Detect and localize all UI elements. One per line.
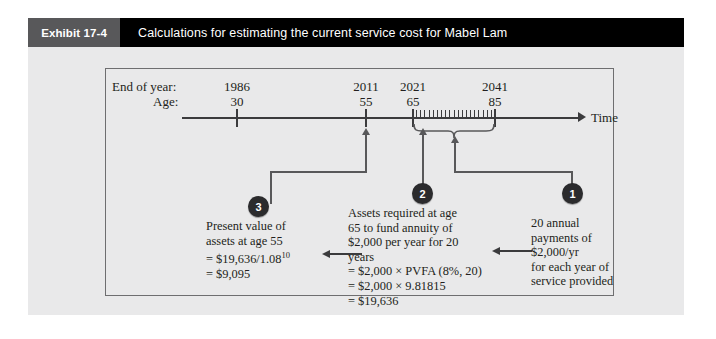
- age-value-55: 55: [343, 94, 389, 110]
- step-badge-2[interactable]: 2: [412, 183, 433, 204]
- note-step-2: Assets required at age 65 to fund annuit…: [348, 206, 493, 308]
- step-badge-1[interactable]: 1: [562, 183, 583, 204]
- label-age: Age:: [153, 94, 178, 110]
- note3-line3: = $19,636/1.0810: [206, 248, 326, 267]
- annual-payment-ticks: [412, 110, 495, 118]
- timeline-axis-label: Time: [591, 110, 618, 126]
- age-value-65: 65: [390, 94, 436, 110]
- age-value-85: 85: [472, 94, 518, 110]
- note3-line4: = $9,095: [206, 267, 326, 282]
- connector-vertical-step2: [422, 134, 424, 187]
- connector-horizontal-step1: [454, 171, 573, 173]
- year-value-1986: 1986: [214, 79, 260, 95]
- note-step-1: 20 annual payments of $2,000/yr for each…: [531, 216, 641, 289]
- note3-line2: assets at age 55: [206, 234, 326, 249]
- exhibit-number-tag: Exhibit 17-4: [28, 18, 120, 47]
- connector-vertical-step3: [270, 171, 272, 204]
- year-value-2021: 2021: [390, 79, 436, 95]
- axis-tick-2011: [365, 109, 367, 127]
- exhibit-title: Calculations for estimating the current …: [120, 18, 684, 47]
- connector-horizontal-step3: [270, 171, 367, 173]
- year-value-2011: 2011: [343, 79, 389, 95]
- note2-line6: = $2,000 × 9.81815: [348, 279, 493, 294]
- exhibit-figure: Exhibit 17-4 Calculations for estimating…: [0, 0, 716, 339]
- arrow-step1-to-step2: [500, 250, 532, 252]
- note1-line5: service provided: [531, 274, 641, 289]
- axis-tick-1986: [236, 109, 238, 127]
- note2-line3: $2,000 per year for 20: [348, 235, 493, 250]
- note3-line1: Present value of: [206, 219, 326, 234]
- connector-vertical-brace: [454, 142, 456, 172]
- note1-line1: 20 annual: [531, 216, 641, 231]
- note-step-3: Present value of assets at age 55 = $19,…: [206, 219, 326, 282]
- timeline-arrow-icon: [578, 112, 586, 122]
- exhibit-header: Exhibit 17-4 Calculations for estimating…: [28, 18, 684, 47]
- note2-line4: years: [348, 250, 493, 265]
- note3-line3-text: = $19,636/1.08: [206, 252, 281, 266]
- note2-line5: = $2,000 × PVFA (8%, 20): [348, 264, 493, 279]
- note1-line3: $2,000/yr: [531, 245, 641, 260]
- note1-line4: for each year of: [531, 260, 641, 275]
- note2-line1: Assets required at age: [348, 206, 493, 221]
- step-badge-3[interactable]: 3: [248, 196, 269, 217]
- note2-line7: = $19,636: [348, 294, 493, 309]
- note1-line2: payments of: [531, 231, 641, 246]
- timeline-axis: [182, 117, 580, 119]
- year-value-2041: 2041: [472, 79, 518, 95]
- age-value-30: 30: [214, 94, 260, 110]
- label-end-of-year: End of year:: [112, 79, 176, 95]
- note3-exponent: 10: [281, 250, 290, 260]
- connector-vertical-age55: [365, 134, 367, 172]
- note2-line2: 65 to fund annuity of: [348, 221, 493, 236]
